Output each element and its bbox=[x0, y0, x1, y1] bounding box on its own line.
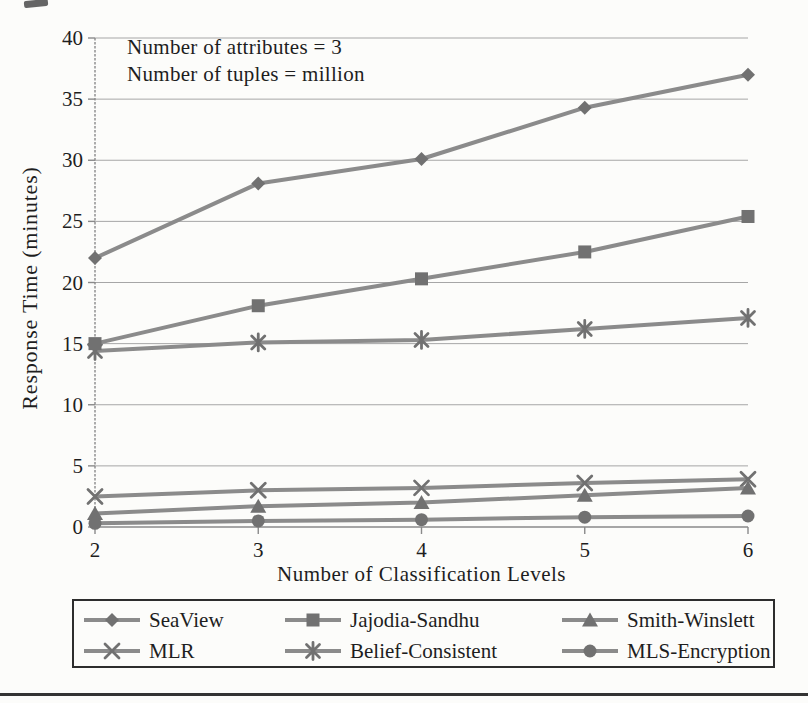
y-tick-label: 20 bbox=[62, 271, 83, 295]
x-tick-label: 3 bbox=[253, 538, 264, 562]
legend-item-belief-consistent: Belief-Consistent bbox=[285, 638, 497, 664]
legend: SeaViewJajodia-SandhuSmith-WinslettMLRBe… bbox=[72, 599, 775, 668]
x-tick-label: 5 bbox=[580, 538, 591, 562]
figure: Number of attributes = 3 Number of tuple… bbox=[0, 0, 808, 703]
series-line-seaview bbox=[95, 75, 748, 258]
series-marker-mls-encryption bbox=[415, 513, 428, 526]
series-marker-mls-encryption bbox=[252, 514, 265, 527]
legend-key-marker bbox=[307, 614, 320, 627]
y-tick-label: 5 bbox=[73, 454, 84, 478]
series-marker-jajodia-sandhu bbox=[252, 299, 265, 312]
series-marker-seaview bbox=[578, 101, 592, 115]
legend-item-label: MLR bbox=[149, 639, 195, 664]
x-marker-icon bbox=[84, 641, 140, 661]
legend-key-marker bbox=[584, 645, 597, 658]
diamond-marker-icon bbox=[84, 610, 140, 630]
x-tick-label: 6 bbox=[743, 538, 754, 562]
legend-item-smith-winslett: Smith-Winslett bbox=[562, 607, 755, 633]
circle-marker-icon bbox=[562, 641, 618, 661]
series-marker-jajodia-sandhu bbox=[742, 210, 755, 223]
y-tick-label: 10 bbox=[62, 393, 83, 417]
series-marker-mls-encryption bbox=[89, 517, 102, 530]
triangle-marker-icon bbox=[562, 610, 618, 630]
legend-item-seaview: SeaView bbox=[84, 607, 224, 633]
y-tick-label: 15 bbox=[62, 332, 83, 356]
legend-item-label: MLS-Encryption bbox=[627, 639, 770, 664]
chart-plot: 051015202530354023456 bbox=[0, 0, 808, 600]
square-marker-icon bbox=[285, 610, 341, 630]
legend-item-label: SeaView bbox=[149, 608, 224, 633]
series-marker-jajodia-sandhu bbox=[578, 245, 591, 258]
y-tick-label: 0 bbox=[73, 515, 84, 539]
series-marker-jajodia-sandhu bbox=[415, 272, 428, 285]
legend-item-mlr: MLR bbox=[84, 638, 195, 664]
legend-item-label: Belief-Consistent bbox=[350, 639, 497, 664]
asterisk-marker-icon bbox=[285, 641, 341, 661]
series-marker-mls-encryption bbox=[742, 509, 755, 522]
y-tick-label: 40 bbox=[62, 26, 83, 50]
legend-item-jajodia-sandhu: Jajodia-Sandhu bbox=[285, 607, 479, 633]
legend-item-label: Smith-Winslett bbox=[627, 608, 755, 633]
legend-item-mls-encryption: MLS-Encryption bbox=[562, 638, 770, 664]
series-marker-seaview bbox=[88, 251, 102, 265]
y-tick-label: 30 bbox=[62, 148, 83, 172]
series-marker-seaview bbox=[251, 176, 265, 190]
x-tick-label: 4 bbox=[416, 538, 427, 562]
legend-item-label: Jajodia-Sandhu bbox=[350, 608, 479, 633]
series-marker-seaview bbox=[741, 68, 755, 82]
series-marker-jajodia-sandhu bbox=[89, 337, 102, 350]
y-tick-label: 25 bbox=[62, 209, 83, 233]
legend-key-marker bbox=[105, 613, 119, 627]
series-marker-mls-encryption bbox=[578, 511, 591, 524]
x-tick-label: 2 bbox=[90, 538, 101, 562]
page-divider-rule bbox=[0, 693, 808, 696]
series-marker-seaview bbox=[415, 152, 429, 166]
x-axis-title: Number of Classification Levels bbox=[95, 562, 748, 587]
y-tick-label: 35 bbox=[62, 87, 83, 111]
